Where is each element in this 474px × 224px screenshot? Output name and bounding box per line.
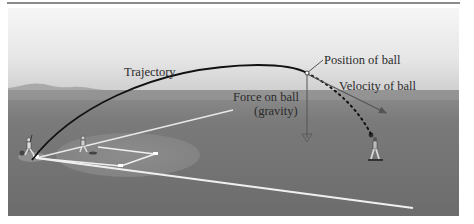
- second-base: [153, 152, 158, 155]
- gravity-label: (gravity): [254, 104, 298, 118]
- ball-position-marker: [305, 71, 309, 75]
- position-of-ball-label: Position of ball: [324, 53, 400, 67]
- catcher-figure: [20, 151, 25, 156]
- field-illustration: [8, 8, 459, 216]
- trajectory-label: Trajectory: [124, 65, 176, 79]
- velocity-of-ball-label: Velocity of ball: [339, 79, 416, 93]
- force-on-ball-label: Force on ball: [233, 90, 299, 104]
- baseball-trajectory-figure: Trajectory Position of ball Velocity of …: [8, 8, 459, 216]
- first-base: [118, 164, 123, 167]
- top-rule: [7, 2, 460, 4]
